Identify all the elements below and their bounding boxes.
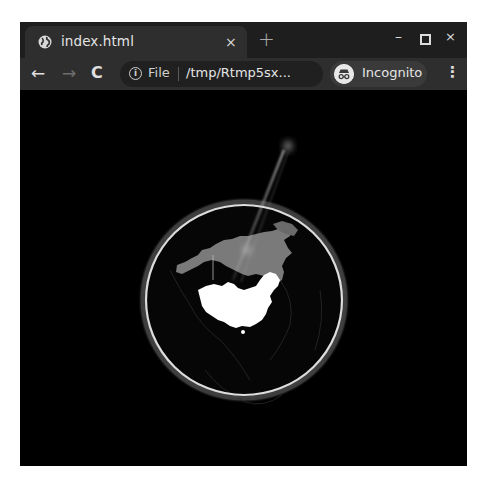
maximize-button[interactable]	[420, 34, 431, 45]
info-icon[interactable]: i	[129, 67, 142, 80]
url-text[interactable]: /tmp/Rtmp5sx...	[186, 65, 291, 80]
tab-bar: index.html × + – ×	[20, 22, 467, 58]
hainan-island	[241, 330, 245, 334]
tab-close-button[interactable]: ×	[225, 34, 237, 50]
globe-visualization[interactable]	[20, 90, 467, 466]
browser-window: index.html × + – × ← → C i File /tmp/Rtm…	[20, 22, 467, 466]
reload-button[interactable]: C	[91, 63, 103, 82]
toolbar: ← → C i File /tmp/Rtmp5sx... ☆ Incognito…	[20, 58, 467, 90]
globe-icon	[38, 35, 52, 49]
new-tab-button[interactable]: +	[258, 27, 275, 51]
back-button[interactable]: ←	[31, 63, 45, 83]
incognito-label: Incognito	[362, 65, 422, 80]
tab-title: index.html	[61, 33, 134, 49]
menu-icon[interactable]: ⋮	[445, 63, 460, 81]
tab-index-html[interactable]: index.html ×	[25, 26, 247, 58]
close-window-button[interactable]: ×	[445, 29, 456, 44]
address-bar[interactable]: i File /tmp/Rtmp5sx... ☆	[120, 61, 323, 87]
page-content	[20, 90, 467, 466]
incognito-icon	[334, 64, 354, 84]
minimize-button[interactable]: –	[395, 28, 402, 44]
scheme-label: File	[148, 65, 170, 80]
omnibox-divider	[178, 67, 179, 81]
forward-button[interactable]: →	[62, 63, 76, 83]
incognito-profile-button[interactable]: Incognito	[330, 61, 427, 87]
